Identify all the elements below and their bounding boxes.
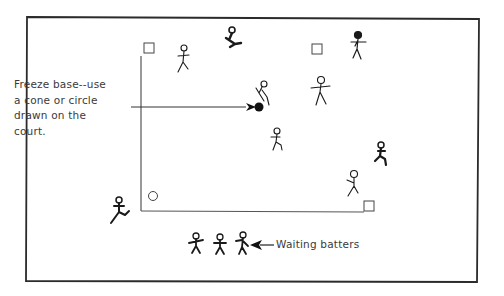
freeze-base-line-2: a cone or circle <box>14 93 114 109</box>
waiting-batter-figure <box>236 232 248 254</box>
waiting-batter-figure <box>189 233 203 253</box>
base-square-top-left <box>144 43 154 53</box>
fielder-figure <box>347 171 358 197</box>
stick-figures <box>111 27 386 254</box>
freeze-base-marker <box>255 103 264 112</box>
base-square-bottom-right <box>364 201 374 211</box>
fielder-figure <box>311 77 330 106</box>
freeze-base-line-4: court. <box>14 124 114 140</box>
court-lines <box>141 56 364 212</box>
base-square-top-middle <box>312 44 322 54</box>
waiting-batter-figure <box>214 234 226 254</box>
fielder-figure <box>178 45 189 72</box>
runner-figure <box>375 142 386 165</box>
waiting-batters-arrow <box>250 240 274 250</box>
fielder-figure <box>271 128 282 150</box>
batter-figure <box>111 197 129 223</box>
freeze-base-annotation: Freeze base--use a cone or circle drawn … <box>14 77 114 139</box>
fielder-figure <box>351 32 366 60</box>
freeze-base-line-3: drawn on the <box>14 108 114 124</box>
runner-figure <box>226 27 241 47</box>
waiting-batters-annotation: Waiting batters <box>276 237 359 253</box>
diagram-canvas: Freeze base--use a cone or circle drawn … <box>0 0 504 296</box>
freeze-base-arrow <box>131 103 256 111</box>
freeze-base-line-1: Freeze base--use <box>14 77 114 93</box>
home-circle <box>149 192 158 201</box>
outer-frame <box>26 17 479 282</box>
fielder-figure <box>256 81 269 105</box>
bases <box>144 43 374 211</box>
